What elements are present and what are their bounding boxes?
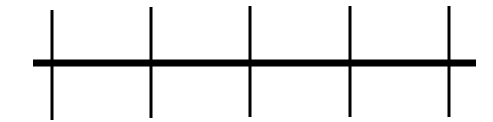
number-line-diagram bbox=[0, 0, 493, 122]
